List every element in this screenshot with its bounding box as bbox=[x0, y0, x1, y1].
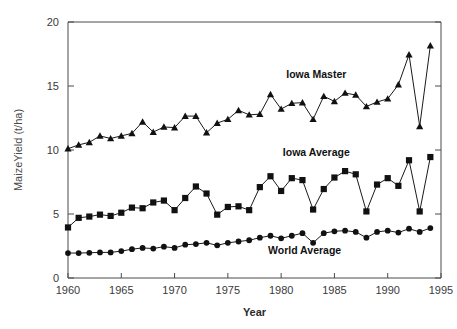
series-label-world-average: World Average bbox=[268, 244, 341, 256]
data-point-marker bbox=[171, 207, 177, 213]
data-point-marker bbox=[108, 250, 114, 256]
data-point-marker bbox=[321, 230, 327, 236]
data-point-marker bbox=[395, 183, 401, 189]
data-point-marker bbox=[182, 195, 188, 201]
data-point-marker bbox=[193, 241, 199, 247]
data-point-marker bbox=[406, 157, 412, 163]
data-point-marker bbox=[278, 235, 284, 241]
data-point-marker bbox=[172, 245, 178, 251]
data-point-marker bbox=[203, 190, 209, 196]
data-point-marker bbox=[385, 228, 391, 234]
data-point-marker bbox=[289, 175, 295, 181]
data-point-marker bbox=[204, 240, 210, 246]
data-point-marker bbox=[427, 225, 433, 231]
x-tick-label: 1970 bbox=[162, 284, 186, 296]
data-point-marker bbox=[214, 242, 220, 248]
x-axis-title: Year bbox=[243, 306, 267, 318]
y-tick-label: 20 bbox=[47, 16, 59, 28]
data-point-marker bbox=[214, 212, 220, 218]
data-point-marker bbox=[76, 250, 82, 256]
data-point-marker bbox=[118, 248, 124, 254]
data-point-marker bbox=[374, 181, 380, 187]
data-point-marker bbox=[161, 244, 167, 250]
data-point-marker bbox=[364, 235, 370, 241]
data-point-marker bbox=[86, 213, 92, 219]
data-point-marker bbox=[385, 175, 391, 181]
data-point-marker bbox=[118, 210, 124, 216]
data-point-marker bbox=[310, 206, 316, 212]
data-point-marker bbox=[236, 239, 242, 245]
data-point-marker bbox=[150, 199, 156, 205]
data-point-marker bbox=[225, 240, 231, 246]
x-tick-label: 1975 bbox=[216, 284, 240, 296]
y-tick-label: 0 bbox=[53, 272, 59, 284]
data-point-marker bbox=[140, 205, 146, 211]
data-point-marker bbox=[257, 235, 263, 241]
data-point-marker bbox=[342, 228, 348, 234]
data-point-marker bbox=[342, 168, 348, 174]
x-tick-label: 1960 bbox=[56, 284, 80, 296]
x-tick-label: 1990 bbox=[375, 284, 399, 296]
data-point-marker bbox=[246, 237, 252, 243]
x-tick-label: 1995 bbox=[429, 284, 453, 296]
data-point-marker bbox=[246, 207, 252, 213]
y-tick-label: 15 bbox=[47, 80, 59, 92]
data-point-marker bbox=[331, 174, 337, 180]
data-point-marker bbox=[278, 188, 284, 194]
data-point-marker bbox=[289, 233, 295, 239]
data-point-marker bbox=[65, 224, 71, 230]
data-point-marker bbox=[299, 177, 305, 183]
y-axis-title: MaizeYield (t/ha) bbox=[12, 109, 24, 191]
data-point-marker bbox=[363, 208, 369, 214]
data-point-marker bbox=[353, 171, 359, 177]
data-point-marker bbox=[427, 154, 433, 160]
data-point-marker bbox=[97, 250, 103, 256]
data-point-marker bbox=[257, 184, 263, 190]
x-tick-label: 1985 bbox=[322, 284, 346, 296]
series-label-iowa-average: Iowa Average bbox=[283, 146, 350, 158]
data-point-marker bbox=[193, 183, 199, 189]
maize-yield-line-chart: 19601965197019751980198519901995 0510152… bbox=[0, 0, 457, 329]
x-tick-label: 1980 bbox=[269, 284, 293, 296]
data-point-marker bbox=[300, 230, 306, 236]
data-point-marker bbox=[235, 203, 241, 209]
data-point-marker bbox=[353, 229, 359, 235]
data-point-marker bbox=[161, 197, 167, 203]
data-point-marker bbox=[108, 213, 114, 219]
x-tick-label: 1965 bbox=[109, 284, 133, 296]
data-point-marker bbox=[76, 215, 82, 221]
data-point-marker bbox=[417, 208, 423, 214]
data-point-marker bbox=[406, 226, 412, 232]
data-point-marker bbox=[332, 228, 338, 234]
data-point-marker bbox=[97, 212, 103, 218]
data-point-marker bbox=[321, 186, 327, 192]
y-tick-label: 5 bbox=[53, 208, 59, 220]
y-tick-label: 10 bbox=[47, 144, 59, 156]
data-point-marker bbox=[268, 233, 274, 239]
data-point-marker bbox=[86, 250, 92, 256]
chart-figure: 19601965197019751980198519901995 0510152… bbox=[0, 0, 457, 329]
data-point-marker bbox=[374, 229, 380, 235]
series-label-iowa-master: Iowa Master bbox=[286, 68, 346, 80]
data-point-marker bbox=[225, 204, 231, 210]
data-point-marker bbox=[65, 250, 71, 256]
data-point-marker bbox=[182, 242, 188, 248]
data-point-marker bbox=[395, 230, 401, 236]
data-point-marker bbox=[267, 173, 273, 179]
data-point-marker bbox=[150, 246, 156, 252]
data-point-marker bbox=[140, 245, 146, 251]
data-point-marker bbox=[129, 246, 135, 252]
data-point-marker bbox=[417, 229, 423, 235]
chart-background bbox=[0, 0, 457, 329]
data-point-marker bbox=[129, 205, 135, 211]
